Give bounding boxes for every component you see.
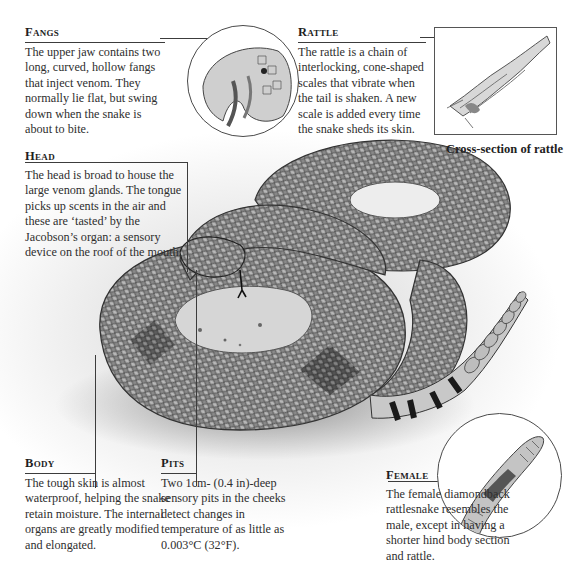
rattle-annotation: Rattle The rattle is a chain of interloc… [298,25,426,138]
head-annotation: Head The head is broad to house the larg… [25,149,185,261]
body-description: The tough skin is almost waterproof, hel… [25,476,175,554]
head-title: Head [25,149,185,166]
rattle-cross-section-icon [435,28,556,134]
rattle-title: Rattle [298,25,426,43]
fangs-annotation: Fangs The upper jaw contains two long, c… [25,25,165,138]
pits-description: Two 1cm- (0.4 in)-deep sensory pits in t… [161,476,301,554]
rattle-cross-section-inset [434,27,557,135]
fangs-title: Fangs [25,25,165,43]
rattle-cross-section-caption: Cross-section of rattle [446,142,563,157]
female-annotation: Female The female diamondback rattlesnak… [386,468,521,564]
fangs-description: The upper jaw contains two long, curved,… [25,45,165,138]
rattle-description: The rattle is a chain of interlocking, c… [298,45,426,138]
body-annotation: Body The tough skin is almost waterproof… [25,456,175,553]
female-description: The female diamondback rattlesnake resem… [386,487,521,564]
head-description: The head is broad to house the large ven… [25,168,185,261]
head-leader-line-v [187,162,188,272]
pits-title: Pits [161,456,196,474]
snake-head-fangs-icon [188,26,298,136]
body-title: Body [25,456,95,474]
pits-annotation: Pits Two 1cm- (0.4 in)-deep sensory pits… [161,456,301,553]
fangs-inset [187,25,299,137]
female-title: Female [386,468,521,485]
pits-leader-line [196,270,197,486]
